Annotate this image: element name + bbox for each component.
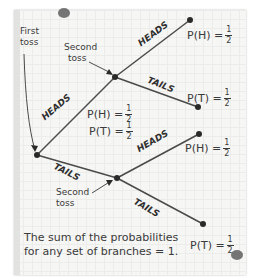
branch-bottom-tails [117, 178, 203, 224]
prob-mid-tails: P(T) = 12 [89, 122, 133, 141]
arrow-first-toss [24, 54, 35, 150]
prob-bottom-heads: P(H) = 12 [185, 139, 230, 158]
second-toss-bottom-label: Second toss [56, 187, 89, 209]
prob-top-heads: P(H) = 12 [187, 26, 232, 45]
sum-note: The sum of the probabilities for any set… [24, 231, 178, 259]
prob-bottom-tails: P(T) = 12 [190, 236, 234, 255]
first-toss-label: First toss [20, 26, 39, 48]
prob-top-tails: P(T) = 12 [187, 89, 231, 108]
second-toss-top-label: Second toss [64, 42, 97, 64]
